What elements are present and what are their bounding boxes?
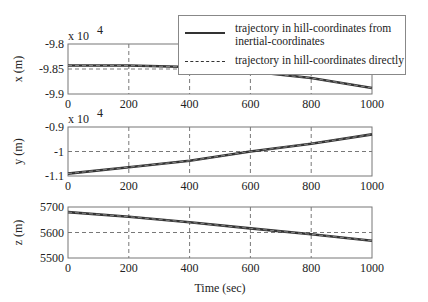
x-tick-label: 400 <box>181 261 199 275</box>
legend-label-dashed: trajectory in hill-coordinates directly <box>235 54 405 67</box>
x-tick-label: 1000 <box>360 179 384 193</box>
y-axis-label: z (m) <box>11 220 25 246</box>
x-tick-label: 200 <box>120 179 138 193</box>
series-line-solid <box>68 212 372 241</box>
y-tick-label: 5700 <box>40 200 64 214</box>
y-tick-label: -9.85 <box>39 62 64 76</box>
x-tick-label: 800 <box>302 261 320 275</box>
x-tick-label: 0 <box>65 179 71 193</box>
axis-multiplier: x 10 <box>68 112 89 126</box>
x-tick-label: 0 <box>65 97 71 111</box>
axis-multiplier: x 10 <box>68 29 89 43</box>
y-tick-label: -1.1 <box>45 169 64 183</box>
legend: trajectory in hill-coordinates from iner… <box>178 15 406 75</box>
series-line-solid <box>68 134 372 173</box>
x-tick-label: 600 <box>241 97 259 111</box>
x-tick-label: 800 <box>302 179 320 193</box>
y-axis-label: x (m) <box>11 56 25 82</box>
y-tick-label: -0.9 <box>45 120 64 134</box>
axis-multiplier-exponent: 4 <box>97 23 103 37</box>
x-tick-label: 600 <box>241 261 259 275</box>
y-axis-label: y (m) <box>11 138 25 164</box>
legend-label-solid-line1: trajectory in hill-coordinates from <box>235 22 405 35</box>
x-tick-label: 1000 <box>360 97 384 111</box>
y-tick-label: 5500 <box>40 251 64 265</box>
y-tick-label: -9.9 <box>45 87 64 101</box>
x-tick-label: 400 <box>181 97 199 111</box>
x-tick-label: 600 <box>241 179 259 193</box>
legend-item-solid: trajectory in hill-coordinates from iner… <box>179 20 405 48</box>
x-tick-label: 200 <box>120 261 138 275</box>
solid-line-swatch <box>185 32 225 34</box>
y-tick-label: -9.8 <box>45 37 64 51</box>
y-tick-label: -1 <box>54 145 64 159</box>
x-tick-label: 200 <box>120 97 138 111</box>
dashed-line-swatch <box>185 61 225 62</box>
x-tick-label: 0 <box>65 261 71 275</box>
legend-item-dashed: trajectory in hill-coordinates directly <box>179 54 405 70</box>
legend-label-solid-line2: inertial-coordinates <box>235 35 405 48</box>
y-tick-label: 5600 <box>40 226 64 240</box>
x-tick-label: 800 <box>302 97 320 111</box>
x-tick-label: 400 <box>181 179 199 193</box>
x-axis-label: Time (sec) <box>194 281 245 295</box>
axis-multiplier-exponent: 4 <box>97 106 103 120</box>
x-tick-label: 1000 <box>360 261 384 275</box>
